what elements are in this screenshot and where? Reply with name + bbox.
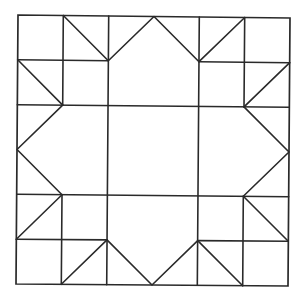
- pattern-line: [61, 240, 107, 284]
- star-point-outline: [107, 240, 198, 285]
- pattern-line: [198, 241, 243, 286]
- pattern-line: [17, 105, 289, 108]
- pattern-line: [63, 16, 108, 61]
- quilt-pattern-svg: [0, 0, 304, 303]
- pattern-line: [63, 16, 64, 106]
- pattern-line: [61, 195, 62, 285]
- pattern-line: [18, 60, 63, 105]
- pattern-line: [197, 17, 199, 285]
- pattern-line: [244, 63, 290, 107]
- pattern-line: [16, 195, 62, 240]
- star-point-outline: [108, 17, 199, 62]
- quilt-pattern-diagram: [0, 0, 304, 303]
- pattern-line: [199, 18, 245, 62]
- pattern-line: [17, 194, 289, 196]
- star-point-outline: [17, 105, 63, 195]
- pattern-line: [243, 196, 244, 285]
- outer-frame: [16, 15, 290, 286]
- pattern-line: [243, 196, 288, 241]
- pattern-line: [107, 16, 109, 285]
- star-point-outline: [243, 107, 289, 196]
- pattern-line: [244, 18, 245, 107]
